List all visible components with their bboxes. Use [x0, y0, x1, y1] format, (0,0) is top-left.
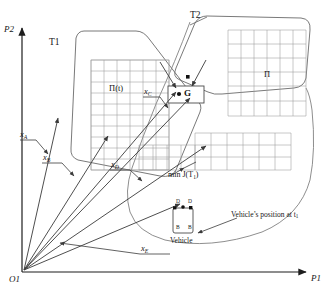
- vehicle-corner-label-b2: B: [188, 225, 192, 231]
- origin-label: O1: [9, 275, 20, 284]
- diagram-canvas: P2 P1 O1 T1 T2 Π(t) Π G xA xB xC xD xE m…: [0, 0, 326, 292]
- leader-vehicle-position: [198, 218, 237, 233]
- grid-label-pi-t: Π(t): [109, 84, 123, 93]
- grid-label-pi: Π: [264, 70, 270, 79]
- vector-arrow-x-a: [24, 118, 58, 270]
- t2-endpoint-marker: [186, 75, 190, 79]
- vector-label-x-a: xA: [20, 130, 27, 139]
- vehicle-corner-label-d1: D: [176, 199, 180, 205]
- leader-x-b: [62, 163, 74, 176]
- vehicle-centre-point: [181, 205, 185, 209]
- vector-label-x-c: xC: [144, 87, 152, 96]
- vehicle-corner-d2: [189, 206, 192, 209]
- goal-point: [177, 92, 181, 96]
- vector-label-x-b: xB: [43, 153, 50, 162]
- vector-arrow-x-b: [24, 136, 108, 270]
- region-label-t1: T1: [49, 38, 60, 48]
- x-axis-label: P1: [311, 274, 321, 283]
- region-label-t2: T2: [190, 11, 201, 21]
- leader-x-e: [60, 243, 140, 254]
- vector-label-x-d: xD: [111, 160, 119, 169]
- vehicle-corner-label-b1: B: [176, 225, 180, 231]
- vehicle-position-label: Vehicle’s position at t1: [231, 211, 298, 219]
- vehicle-caption: Vehicle: [170, 237, 193, 245]
- grid-lower: [195, 133, 291, 170]
- vector-label-x-e: xE: [141, 244, 148, 253]
- grid-left: [91, 60, 169, 170]
- region-outline-t2: [175, 16, 310, 94]
- vehicle-corner-label-d2: D: [188, 199, 192, 205]
- leader-min-j-tail: [184, 162, 196, 168]
- min-cost-label: min J(T1): [168, 171, 199, 179]
- goal-label: G: [184, 89, 191, 98]
- y-axis-label: P2: [4, 25, 14, 34]
- goal-inbound-arrow-right: [192, 60, 206, 86]
